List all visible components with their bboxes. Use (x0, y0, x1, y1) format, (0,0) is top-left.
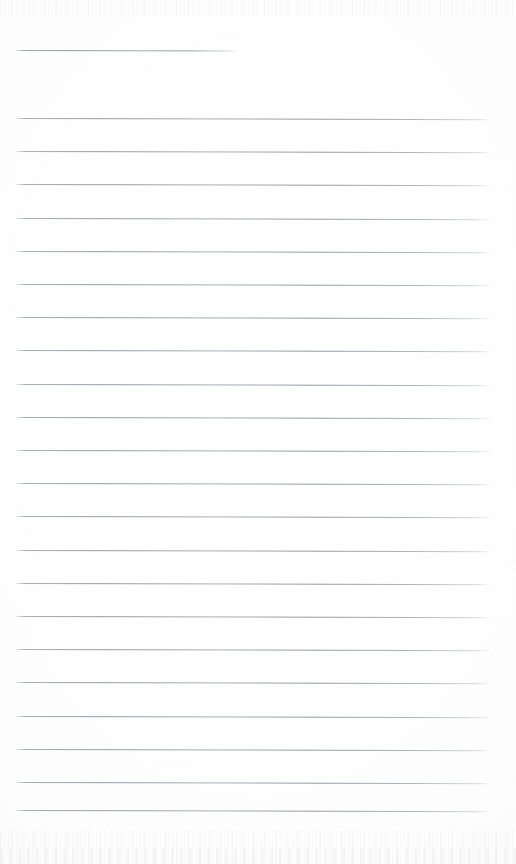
ruled-line (16, 583, 489, 585)
ruled-line (16, 483, 489, 485)
ruled-line (16, 550, 489, 552)
ruled-line (16, 151, 489, 153)
ruled-line (16, 184, 489, 186)
ruled-line (16, 317, 489, 319)
ruled-line (16, 810, 489, 812)
ruled-line (16, 417, 489, 419)
ruled-line (16, 682, 489, 684)
ruled-line (16, 649, 489, 651)
ruled-line (16, 218, 489, 220)
ruled-line (16, 450, 489, 452)
ruled-line (16, 782, 489, 784)
ruled-line (16, 516, 489, 518)
ruled-line (16, 384, 489, 386)
ruled-lines-layer (0, 0, 516, 864)
ruled-line (16, 716, 489, 718)
scanned-page (0, 0, 516, 864)
ruled-line (16, 284, 489, 286)
ruled-line (16, 50, 238, 52)
ruled-line (16, 749, 489, 751)
ruled-line (16, 251, 489, 253)
ruled-line (16, 118, 489, 120)
ruled-line (16, 350, 489, 352)
ruled-line (16, 616, 489, 618)
